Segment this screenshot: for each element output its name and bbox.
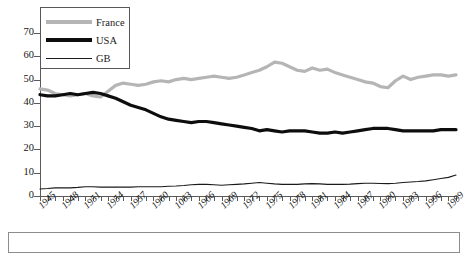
y-label-50: 50 bbox=[4, 74, 34, 84]
x-label-1972: 1972 bbox=[240, 189, 262, 211]
legend-swatch-gb bbox=[46, 58, 92, 59]
y-tick-40 bbox=[34, 103, 40, 104]
y-label-10: 10 bbox=[4, 167, 34, 177]
x-label-1993: 1993 bbox=[399, 189, 421, 211]
x-label-1984: 1984 bbox=[331, 189, 353, 211]
y-label-60: 60 bbox=[4, 50, 34, 60]
x-label-1948: 1948 bbox=[59, 189, 81, 211]
chart-legend: France USA GB bbox=[40, 7, 130, 69]
y-label-30: 30 bbox=[4, 120, 34, 130]
x-label-1996: 1996 bbox=[422, 189, 444, 211]
line-chart: 010203040506070 194519481951195419571960… bbox=[0, 0, 468, 255]
x-label-1957: 1957 bbox=[127, 189, 149, 211]
x-label-1969: 1969 bbox=[218, 189, 240, 211]
y-label-40: 40 bbox=[4, 97, 34, 107]
x-label-1999: 1999 bbox=[444, 189, 466, 211]
legend-item-usa: USA bbox=[41, 31, 129, 49]
y-tick-10 bbox=[34, 173, 40, 174]
legend-label-usa: USA bbox=[96, 35, 117, 46]
x-label-1975: 1975 bbox=[263, 189, 285, 211]
x-label-1063: 1063 bbox=[172, 189, 194, 211]
series-line-gb bbox=[40, 175, 456, 189]
y-label-20: 20 bbox=[4, 143, 34, 153]
legend-swatch-france bbox=[46, 20, 92, 24]
legend-item-france: France bbox=[41, 13, 129, 31]
y-tick-30 bbox=[34, 126, 40, 127]
y-tick-20 bbox=[34, 149, 40, 150]
y-label-70: 70 bbox=[4, 27, 34, 37]
caption-box bbox=[8, 232, 460, 253]
legend-label-gb: GB bbox=[96, 53, 111, 64]
legend-item-gb: GB bbox=[41, 49, 129, 67]
series-line-usa bbox=[40, 92, 456, 133]
x-label-1987: 1987 bbox=[354, 189, 376, 211]
y-label-0: 0 bbox=[4, 190, 34, 200]
caption-text bbox=[9, 233, 459, 239]
x-label-1954: 1954 bbox=[104, 189, 126, 211]
x-label-1966: 1966 bbox=[195, 189, 217, 211]
legend-swatch-usa bbox=[46, 38, 92, 42]
x-label-1978: 1978 bbox=[286, 189, 308, 211]
legend-label-france: France bbox=[96, 17, 125, 28]
y-tick-50 bbox=[34, 80, 40, 81]
